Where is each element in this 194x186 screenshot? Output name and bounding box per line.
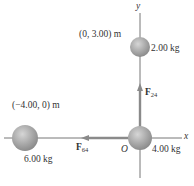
mass-label-m4: 4.00 kg [152, 145, 181, 155]
force-arrow-f24 [137, 83, 143, 127]
force-label-f64: F64 [76, 143, 88, 154]
sphere-mass-6kg [12, 125, 38, 151]
position-label-m6: (−4.00, 0) m [12, 101, 60, 111]
position-label-m2: (0, 3.00) m [79, 30, 121, 40]
origin-label: O [121, 145, 128, 155]
mass-label-m2: 2.00 kg [151, 44, 180, 54]
x-axis-label: x [184, 132, 188, 142]
sphere-mass-4kg [128, 126, 152, 150]
mass-label-m6: 6.00 kg [24, 155, 53, 165]
force-subscript: 64 [82, 146, 89, 153]
force-label-f24: F24 [145, 88, 157, 99]
y-axis-label: y [136, 2, 140, 12]
force-subscript: 24 [151, 91, 158, 98]
sphere-mass-2kg [130, 37, 150, 57]
force-arrow-f64 [81, 135, 128, 141]
